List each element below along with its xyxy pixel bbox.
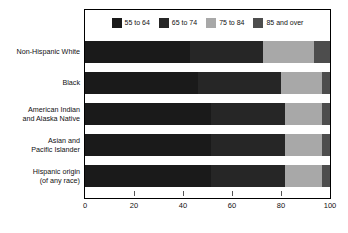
bar-segment-1[interactable] [211, 134, 285, 156]
bar-row[interactable] [85, 72, 330, 94]
bar-segment-2[interactable] [281, 72, 322, 94]
bar-segment-2[interactable] [285, 103, 322, 125]
bar-segment-3[interactable] [322, 165, 330, 187]
legend-item-1[interactable]: 65 to 74 [159, 18, 197, 28]
bar-segment-1[interactable] [211, 165, 285, 187]
legend-swatch-icon [206, 18, 216, 28]
bar-segment-1[interactable] [211, 103, 285, 125]
bar-segment-2[interactable] [263, 41, 314, 63]
bar-row[interactable] [85, 103, 330, 125]
legend-swatch-icon [253, 18, 263, 28]
bar-segment-3[interactable] [322, 134, 330, 156]
category-label-line: Pacific Islander [0, 145, 80, 154]
bar-segment-2[interactable] [285, 134, 322, 156]
category-label: Black [0, 78, 80, 87]
category-label-line: Black [0, 78, 80, 87]
chart-legend: 55 to 6465 to 7475 to 8485 and over [84, 9, 331, 36]
category-axis-labels: Non-Hispanic WhiteBlackAmerican Indianan… [0, 36, 80, 191]
bar-segment-0[interactable] [85, 165, 211, 187]
category-label-line: Asian and [0, 136, 80, 145]
category-label-line: (of any race) [0, 176, 80, 185]
x-axis-tick-labels: 020406080100 [0, 201, 348, 215]
bars-area [85, 36, 330, 191]
x-axis-tick-label: 0 [83, 201, 87, 210]
x-axis-tick [183, 191, 184, 196]
stacked-bar-chart: 55 to 6465 to 7475 to 8485 and over Non-… [0, 0, 348, 233]
x-axis-ticks [85, 191, 330, 199]
bar-segment-1[interactable] [190, 41, 262, 63]
bar-row[interactable] [85, 134, 330, 156]
bar-segment-3[interactable] [322, 103, 330, 125]
x-axis-tick-label: 80 [277, 201, 285, 210]
x-axis-tick-label: 40 [179, 201, 187, 210]
bar-segment-2[interactable] [285, 165, 322, 187]
x-axis-tick [232, 191, 233, 196]
legend-item-label: 65 to 74 [172, 19, 197, 26]
bar-track [85, 165, 330, 187]
bar-segment-0[interactable] [85, 41, 190, 63]
legend-item-label: 75 to 84 [219, 19, 244, 26]
bar-row[interactable] [85, 41, 330, 63]
x-axis-tick-label: 20 [130, 201, 138, 210]
category-label-line: Non-Hispanic White [0, 47, 80, 56]
bar-segment-3[interactable] [322, 72, 330, 94]
bar-track [85, 134, 330, 156]
category-label: Hispanic origin(of any race) [0, 167, 80, 185]
category-label-line: and Alaska Native [0, 114, 80, 123]
category-label-line: American Indian [0, 105, 80, 114]
legend-item-2[interactable]: 75 to 84 [206, 18, 244, 28]
category-label: Non-Hispanic White [0, 47, 80, 56]
bar-segment-0[interactable] [85, 103, 211, 125]
legend-swatch-icon [159, 18, 169, 28]
x-axis-tick-label: 100 [324, 201, 337, 210]
bar-track [85, 103, 330, 125]
x-axis-tick [281, 191, 282, 196]
bar-segment-0[interactable] [85, 134, 211, 156]
bar-segment-3[interactable] [314, 41, 330, 63]
legend-item-0[interactable]: 55 to 64 [112, 18, 150, 28]
bar-row[interactable] [85, 165, 330, 187]
category-label: American Indianand Alaska Native [0, 105, 80, 123]
legend-item-label: 55 to 64 [125, 19, 150, 26]
bar-segment-0[interactable] [85, 72, 198, 94]
legend-item-3[interactable]: 85 and over [253, 18, 303, 28]
bar-segment-1[interactable] [198, 72, 281, 94]
category-label-line: Hispanic origin [0, 167, 80, 176]
legend-swatch-icon [112, 18, 122, 28]
x-axis-tick [134, 191, 135, 196]
bar-track [85, 41, 330, 63]
bar-track [85, 72, 330, 94]
legend-item-label: 85 and over [266, 19, 303, 26]
category-label: Asian andPacific Islander [0, 136, 80, 154]
x-axis-tick-label: 60 [228, 201, 236, 210]
